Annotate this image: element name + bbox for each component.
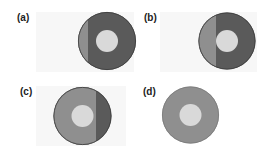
- donut-c: [53, 86, 112, 146]
- light-segment: [198, 12, 217, 71]
- donut-b: [198, 12, 256, 71]
- inner-circle: [96, 30, 118, 52]
- donut-diagram: [0, 0, 267, 158]
- inner-circle: [216, 30, 238, 52]
- donut-d: [162, 87, 219, 144]
- donut-a: [77, 11, 136, 71]
- inner-circle: [180, 104, 202, 126]
- inner-circle: [72, 105, 94, 127]
